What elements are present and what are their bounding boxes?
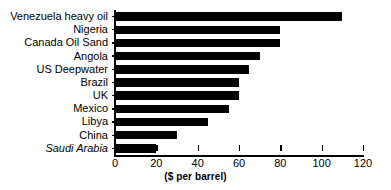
category-label: Angola [74,50,108,63]
x-axis-tick-label: 40 [192,157,204,170]
bar [115,118,208,126]
bar-row: Mexico [115,102,363,115]
bar [115,65,249,73]
bar-row: Nigeria [115,23,363,36]
bar [115,26,280,34]
plot-area: Venezuela heavy oilNigeriaCanada Oil San… [115,10,363,155]
x-axis-tick [239,145,240,151]
bar-row: Canada Oil Sand [115,36,363,49]
category-label: US Deepwater [36,63,108,76]
bar-chart: Venezuela heavy oilNigeriaCanada Oil San… [0,0,391,190]
x-axis-tick [198,145,199,151]
bar [115,105,229,113]
x-axis-tick-label: 100 [312,157,330,170]
x-axis-tick-label: 20 [150,157,162,170]
category-label: China [79,129,108,142]
x-axis-tick-label: 60 [233,157,245,170]
category-label: UK [93,89,108,102]
bar-row: Libya [115,115,363,128]
bar [115,91,239,99]
bar-row: Angola [115,50,363,63]
bar [115,12,342,20]
category-label: Venezuela heavy oil [10,10,108,23]
category-label: Brazil [80,76,108,89]
bar-row: UK [115,89,363,102]
bar [115,144,156,152]
x-axis-tick [156,145,157,151]
category-label: Libya [82,115,108,128]
x-axis-tick [115,145,116,151]
x-axis-tick-label: 0 [112,157,118,170]
bar-row: US Deepwater [115,63,363,76]
bar [115,78,239,86]
x-axis-tick [280,145,281,151]
bar-row: China [115,129,363,142]
bar-row: Venezuela heavy oil [115,10,363,23]
x-axis-tick-label: 80 [274,157,286,170]
category-label: Mexico [73,102,108,115]
category-label: Saudi Arabia [45,142,108,155]
category-label: Nigeria [73,23,108,36]
bar [115,39,280,47]
x-axis-tick [322,145,323,151]
category-label: Canada Oil Sand [24,36,108,49]
bar [115,52,260,60]
x-axis-tick [363,145,364,151]
bar-row: Brazil [115,76,363,89]
x-axis-tick-label: 120 [354,157,372,170]
x-axis-title: ($ per barrel) [0,171,391,182]
bar [115,131,177,139]
